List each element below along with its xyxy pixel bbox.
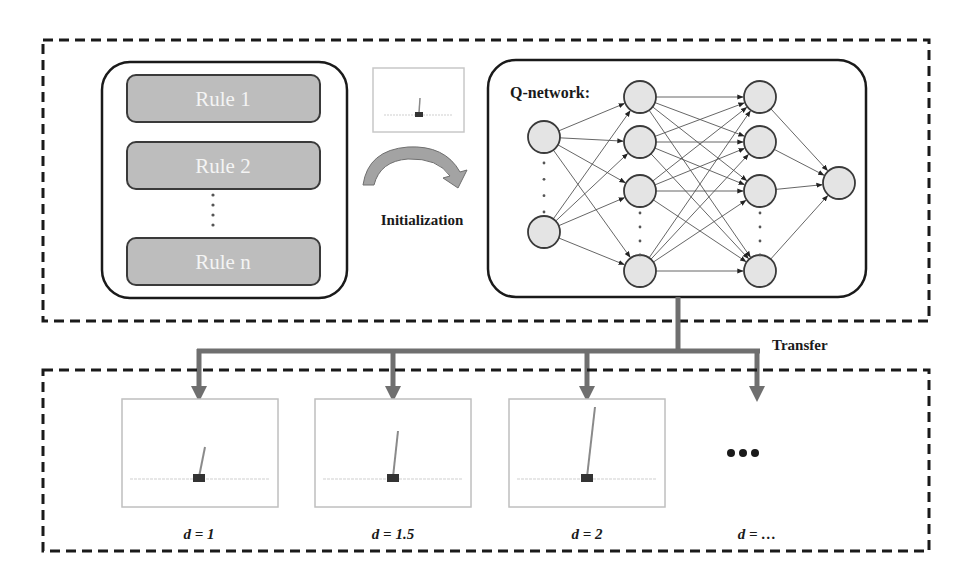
cart — [415, 112, 423, 117]
transfer-arrow-4 — [749, 349, 765, 402]
curved-arrow-icon — [363, 147, 467, 188]
input-node-1 — [528, 121, 560, 153]
hidden-2-node-1 — [744, 81, 776, 113]
input-ellipsis-icon — [543, 162, 546, 165]
environment-panels: d = 1d = 1.5d = 2d = … — [122, 399, 776, 542]
cart — [581, 474, 593, 482]
hidden-2-node-3 — [744, 175, 776, 207]
hidden-1-ellipsis-icon — [639, 212, 642, 215]
environment-3: d = 2 — [509, 399, 665, 542]
environment-2: d = 1.5 — [315, 399, 471, 542]
cartpole-panel — [122, 399, 278, 507]
initialization-preview-env — [373, 68, 464, 132]
input-ellipsis-icon — [543, 211, 546, 214]
cartpole-panel — [315, 399, 471, 507]
cart — [387, 474, 399, 482]
hidden-1-ellipsis-icon — [639, 254, 642, 257]
hidden-1-node-2 — [624, 126, 656, 158]
pole — [419, 98, 420, 113]
environment-4: d = … — [727, 449, 776, 542]
rule-label: Rule n — [195, 250, 251, 274]
input-node-2 — [528, 216, 560, 248]
rule-box-1: Rule 1 — [127, 75, 320, 122]
hidden-2-ellipsis-icon — [759, 254, 762, 257]
cart — [193, 474, 205, 482]
transfer-label: Transfer — [772, 337, 828, 353]
transfer-arrow-3 — [579, 349, 595, 402]
hidden-2-ellipsis-icon — [759, 212, 762, 215]
environment-1: d = 1 — [122, 399, 278, 542]
rule-box-2: Rule 2 — [127, 142, 320, 189]
more-dots-icon — [739, 449, 747, 457]
hidden-1-node-3 — [624, 175, 656, 207]
more-dots-icon — [751, 449, 759, 457]
hidden-1-node-1 — [624, 81, 656, 113]
hidden-2-ellipsis-icon — [759, 226, 762, 229]
q-network-title: Q-network: — [510, 84, 590, 101]
rule-label: Rule 1 — [195, 87, 250, 111]
hidden-2-node-2 — [744, 126, 776, 158]
rules-panel: Rule 1Rule 2Rule n — [102, 62, 347, 298]
environment-label: d = 2 — [571, 526, 603, 542]
cartpole-panel — [509, 399, 665, 507]
environment-label: d = 1.5 — [372, 526, 415, 542]
output-node-1 — [823, 167, 855, 199]
hidden-2-node-4 — [744, 255, 776, 287]
more-dots-icon — [727, 449, 735, 457]
environment-label: d = … — [738, 526, 777, 542]
initialization-label: Initialization — [381, 212, 464, 228]
rule-label: Rule 2 — [195, 154, 250, 178]
hidden-1-ellipsis-icon — [639, 240, 642, 243]
q-network-panel: Q-network: — [488, 60, 866, 297]
transfer-learning-diagram: Rule 1Rule 2Rule n Initialization Q-netw… — [0, 0, 973, 575]
rule-box-3: Rule n — [127, 238, 320, 285]
input-ellipsis-icon — [543, 178, 546, 181]
transfer-connectors — [191, 297, 765, 402]
transfer-arrow-2 — [385, 349, 401, 402]
transfer-arrow-1 — [191, 349, 207, 402]
hidden-1-ellipsis-icon — [639, 226, 642, 229]
input-ellipsis-icon — [543, 194, 546, 197]
environment-label: d = 1 — [183, 526, 214, 542]
hidden-2-ellipsis-icon — [759, 240, 762, 243]
hidden-1-node-4 — [624, 255, 656, 287]
